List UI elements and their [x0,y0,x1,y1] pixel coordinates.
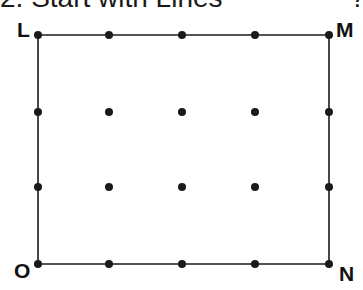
grid-dot-r3-c2 [178,260,186,268]
dot-grid-diagram [0,0,363,290]
grid-dot-r1-c1 [105,108,113,116]
grid-dot-r2-c3 [251,183,259,191]
grid-dot-r3-c0 [34,260,42,268]
grid-dot-r1-c4 [325,108,333,116]
grid-dot-r0-c1 [105,31,113,39]
corner-label-L: L [17,19,30,40]
grid-dot-r1-c0 [34,108,42,116]
grid-dot-r2-c4 [325,183,333,191]
grid-dot-r0-c4 [325,31,333,39]
grid-dot-r0-c2 [178,31,186,39]
rectangle-outline [38,35,329,264]
grid-dot-r2-c2 [178,183,186,191]
grid-dot-r3-c1 [105,260,113,268]
grid-dot-r1-c3 [251,108,259,116]
corner-label-M: M [336,19,354,40]
grid-dot-r1-c2 [178,108,186,116]
grid-dot-r2-c1 [105,183,113,191]
grid-dot-r0-c3 [251,31,259,39]
grid-dot-r0-c0 [34,31,42,39]
grid-dot-r3-c4 [325,260,333,268]
corner-label-N: N [339,263,354,284]
corner-label-O: O [14,260,30,281]
grid-dot-r2-c0 [34,183,42,191]
dot-grid [34,31,333,268]
grid-dot-r3-c3 [251,260,259,268]
